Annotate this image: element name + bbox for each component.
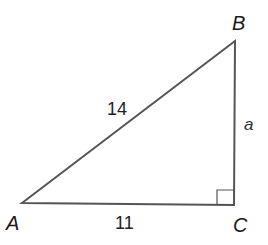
side-label-base: 11 <box>115 213 134 233</box>
triangle-diagram: A B C 14 11 a <box>0 0 268 245</box>
side-label-hypotenuse: 14 <box>107 99 127 119</box>
triangle-shape <box>22 41 235 205</box>
side-label-leg: a <box>244 115 253 134</box>
right-angle-marker <box>217 190 234 205</box>
vertex-label-c: C <box>233 214 248 236</box>
vertex-label-b: B <box>232 12 245 34</box>
vertex-label-a: A <box>5 212 19 234</box>
